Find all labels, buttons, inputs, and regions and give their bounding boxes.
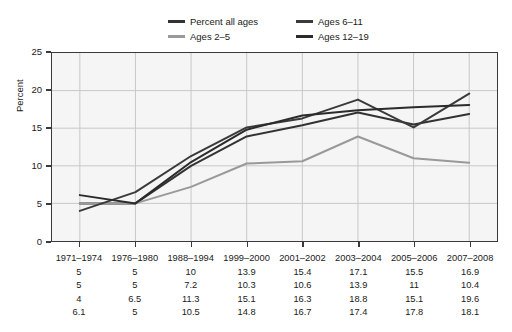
table-cell: 19.6 bbox=[461, 293, 479, 307]
table-cell: 5 bbox=[132, 279, 137, 293]
table-cell: 16.9 bbox=[461, 266, 479, 280]
legend-swatch-icon bbox=[296, 35, 313, 38]
table-header-cell: 2005–2006 bbox=[391, 252, 438, 266]
legend-label: Percent all ages bbox=[190, 17, 258, 27]
table-cell: 17.1 bbox=[349, 266, 367, 280]
table-row: 46.511.315.116.318.815.119.6 bbox=[0, 293, 512, 307]
y-tick-label: 20 bbox=[20, 85, 42, 95]
y-axis: Percent 2520151050 bbox=[0, 0, 51, 252]
x-tick-mark bbox=[247, 242, 248, 247]
x-tick-mark bbox=[302, 242, 303, 247]
x-tick-mark bbox=[135, 242, 136, 247]
table-cell: 4 bbox=[76, 293, 81, 307]
table-cell: 16.3 bbox=[293, 293, 311, 307]
legend-item-ages-12-19: Ages 12–19 bbox=[296, 32, 398, 42]
legend-swatch-icon bbox=[168, 20, 185, 23]
table-header-cell: 2007–2008 bbox=[447, 252, 494, 266]
table-cell: 18.8 bbox=[349, 293, 367, 307]
x-tick-mark bbox=[79, 242, 80, 247]
legend-item-ages-2-5: Ages 2–5 bbox=[168, 32, 296, 42]
table-cell: 13.9 bbox=[349, 279, 367, 293]
table-cell: 13.9 bbox=[238, 266, 256, 280]
chart-legend: Percent all ages Ages 6–11 Ages 2–5 Ages… bbox=[168, 14, 398, 44]
y-tick-label: 5 bbox=[20, 199, 42, 209]
table-cell: 10.3 bbox=[238, 279, 256, 293]
table-header-cell: 1971–1974 bbox=[56, 252, 103, 266]
y-tick-label: 10 bbox=[20, 161, 42, 171]
table-cell: 6.1 bbox=[72, 306, 85, 320]
legend-swatch-icon bbox=[168, 35, 185, 38]
data-table: 1971–19741976–19801988–19941999–20002001… bbox=[0, 252, 512, 320]
series-line-2 bbox=[80, 94, 469, 211]
table-header-cell: 2003–2004 bbox=[335, 252, 382, 266]
table-cell: 15.5 bbox=[405, 266, 423, 280]
table-header-cell: 1999–2000 bbox=[223, 252, 270, 266]
table-cell: 5 bbox=[132, 266, 137, 280]
table-cell: 16.7 bbox=[293, 306, 311, 320]
table-cell: 10.6 bbox=[293, 279, 311, 293]
y-tick-label: 15 bbox=[20, 123, 42, 133]
table-cell: 10.4 bbox=[461, 279, 479, 293]
legend-label: Ages 2–5 bbox=[190, 32, 230, 42]
table-cell: 5 bbox=[132, 306, 137, 320]
table-header-row: 1971–19741976–19801988–19941999–20002001… bbox=[0, 252, 512, 266]
plot-area bbox=[51, 52, 498, 242]
series-line-1 bbox=[80, 136, 469, 203]
table-cell: 10 bbox=[186, 266, 196, 280]
table-header-cell: 1988–1994 bbox=[167, 252, 214, 266]
x-tick-mark bbox=[358, 242, 359, 247]
table-cell: 15.4 bbox=[293, 266, 311, 280]
table-cell: 17.4 bbox=[349, 306, 367, 320]
chart-figure: Percent all ages Ages 6–11 Ages 2–5 Ages… bbox=[0, 0, 512, 332]
table-cell: 14.8 bbox=[238, 306, 256, 320]
legend-label: Ages 6–11 bbox=[318, 17, 363, 27]
x-tick-mark bbox=[414, 242, 415, 247]
y-tick-label: 25 bbox=[20, 47, 42, 57]
table-cell: 6.5 bbox=[128, 293, 141, 307]
table-row: 6.1510.514.816.717.417.818.1 bbox=[0, 306, 512, 320]
table-cell: 5 bbox=[76, 279, 81, 293]
legend-item-percent-all-ages: Percent all ages bbox=[168, 17, 296, 27]
legend-swatch-icon bbox=[296, 20, 313, 23]
table-header-cell: 2001–2002 bbox=[279, 252, 326, 266]
legend-label: Ages 12–19 bbox=[318, 32, 369, 42]
legend-item-ages-6-11: Ages 6–11 bbox=[296, 17, 398, 27]
table-cell: 5 bbox=[76, 266, 81, 280]
table-row: 557.210.310.613.91110.4 bbox=[0, 279, 512, 293]
x-tick-mark bbox=[191, 242, 192, 247]
table-cell: 15.1 bbox=[238, 293, 256, 307]
x-axis-ticks bbox=[0, 242, 512, 249]
table-cell: 11 bbox=[409, 279, 419, 293]
table-cell: 17.8 bbox=[405, 306, 423, 320]
series-line-3 bbox=[80, 105, 469, 204]
table-row: 551013.915.417.115.516.9 bbox=[0, 266, 512, 280]
table-cell: 7.2 bbox=[184, 279, 197, 293]
table-cell: 11.3 bbox=[182, 293, 199, 307]
table-cell: 18.1 bbox=[461, 306, 479, 320]
x-tick-mark bbox=[470, 242, 471, 247]
table-cell: 10.5 bbox=[182, 306, 200, 320]
table-cell: 15.1 bbox=[405, 293, 423, 307]
table-header-cell: 1976–1980 bbox=[112, 252, 159, 266]
